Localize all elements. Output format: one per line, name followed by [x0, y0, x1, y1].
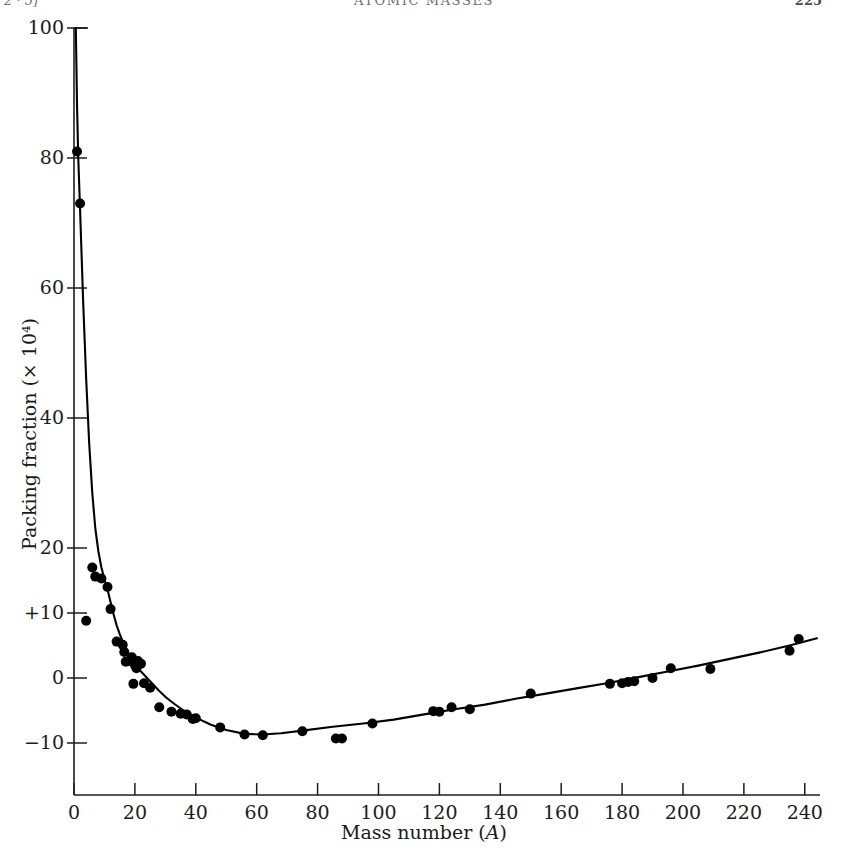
packing-fraction-chart: [0, 0, 848, 851]
data-point: [794, 634, 804, 644]
data-point: [258, 730, 268, 740]
y-tick-label: 0: [8, 666, 64, 688]
x-tick-label: 80: [288, 801, 348, 823]
x-tick-label: 100: [348, 801, 408, 823]
x-tick-label: 140: [470, 801, 530, 823]
mass-number-symbol: A: [486, 821, 500, 843]
data-point: [240, 730, 250, 740]
data-point: [166, 707, 176, 717]
x-tick-label: 180: [592, 801, 652, 823]
x-tick-label: 40: [166, 801, 226, 823]
fit-curve: [76, 28, 817, 735]
data-point: [605, 679, 615, 689]
x-tick-label: 160: [531, 801, 591, 823]
series-0: [72, 147, 804, 744]
x-tick-label: 240: [775, 801, 835, 823]
y-tick-label: +10: [8, 601, 64, 623]
data-point: [367, 719, 377, 729]
data-point: [96, 574, 106, 584]
data-point: [629, 676, 639, 686]
data-point: [705, 664, 715, 674]
x-axis-title: Mass number (A): [0, 821, 848, 843]
data-point: [75, 199, 85, 209]
x-tick-label: 200: [653, 801, 713, 823]
data-point: [447, 702, 457, 712]
x-tick-label: 0: [44, 801, 104, 823]
data-point: [72, 147, 82, 157]
data-point: [136, 659, 146, 669]
y-tick-label: −10: [8, 731, 64, 753]
y-tick-label: 100: [8, 16, 64, 38]
y-axis-title: Packing fraction (× 10⁴): [18, 318, 40, 550]
x-tick-label: 120: [409, 801, 469, 823]
x-tick-label: 20: [105, 801, 165, 823]
page: 2 · 5] ATOMIC MASSES 225 10080604020+100…: [0, 0, 848, 851]
data-point: [191, 713, 201, 723]
data-point: [434, 707, 444, 717]
data-point: [128, 679, 138, 689]
data-point: [145, 683, 155, 693]
data-point: [465, 704, 475, 714]
data-point: [648, 673, 658, 683]
data-point: [121, 657, 131, 667]
data-point: [666, 663, 676, 673]
data-point: [337, 733, 347, 743]
data-point: [106, 604, 116, 614]
data-point: [215, 722, 225, 732]
x-tick-label: 220: [714, 801, 774, 823]
data-point: [785, 646, 795, 656]
y-tick-label: 60: [8, 276, 64, 298]
data-point: [87, 563, 97, 573]
x-tick-label: 60: [227, 801, 287, 823]
data-point: [526, 689, 536, 699]
data-point: [102, 582, 112, 592]
y-tick-label: 80: [8, 146, 64, 168]
data-point: [297, 726, 307, 736]
chart-canvas: [0, 0, 848, 851]
data-point: [81, 616, 91, 626]
data-point: [154, 702, 164, 712]
